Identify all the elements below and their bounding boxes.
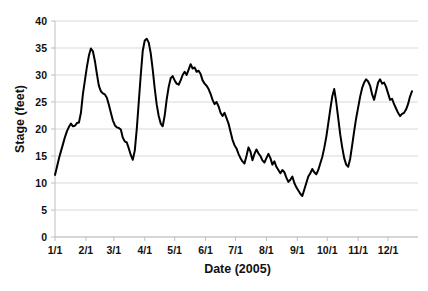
y-axis-tick-15: 15 [17,151,47,161]
y-axis-tick-40: 40 [17,16,47,26]
y-axis-tick-25: 25 [17,97,47,107]
data-series-stage [55,39,412,196]
y-axis-tick-0: 0 [17,232,47,242]
y-axis-tick-30: 30 [17,70,47,80]
y-axis-tick-20: 20 [17,124,47,134]
axis-lines [51,21,418,241]
gridlines [55,21,418,237]
y-axis-tick-5: 5 [17,205,47,215]
chart-figure: Stage (feet) Date (2005) 403530252015105… [0,0,428,291]
y-axis-tick-35: 35 [17,43,47,53]
x-axis-title: Date (2005) [55,262,420,276]
x-axis-tick-12-1: 12/1 [368,245,408,255]
y-axis-tick-10: 10 [17,178,47,188]
